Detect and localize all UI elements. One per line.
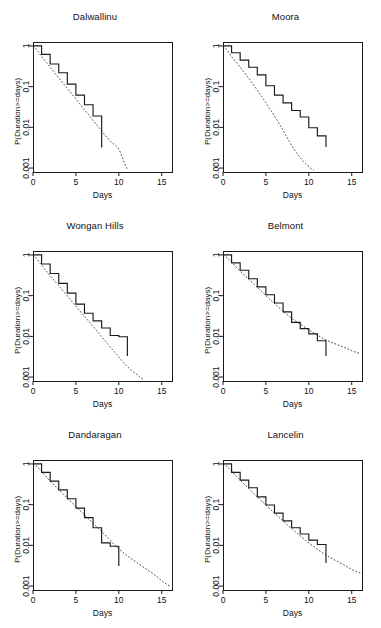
y-tick-label: 0.01 [21, 537, 31, 554]
x-axis-label: Days [33, 399, 172, 409]
y-tick-label: 0.01 [21, 119, 31, 136]
x-axis-label: Days [223, 190, 362, 200]
empirical-step-curve [33, 255, 127, 356]
x-tick-label: 15 [157, 595, 167, 605]
y-tick-label: 0.01 [211, 328, 221, 345]
y-tick-label: 0.1 [21, 498, 31, 510]
plot-area: 05101510.10.010.001 [190, 418, 380, 627]
chart-panel: Moora05101510.10.010.001P(Duration>=days… [190, 0, 381, 209]
x-tick-label: 0 [221, 595, 226, 605]
x-tick-label: 10 [114, 177, 124, 187]
x-tick-label: 5 [74, 177, 79, 187]
y-tick-label: 1 [21, 252, 31, 257]
x-axis-label: Days [223, 399, 362, 409]
x-tick-label: 10 [114, 595, 124, 605]
plot-area: 05101510.10.010.001 [0, 418, 190, 627]
y-tick-label: 1 [211, 252, 221, 257]
y-tick-label: 0.1 [211, 498, 221, 510]
chart-panel: Dalwallinu05101510.10.010.001P(Duration>… [0, 0, 190, 209]
figure-panel-grid: Dalwallinu05101510.10.010.001P(Duration>… [0, 0, 381, 628]
y-tick-label: 1 [21, 43, 31, 48]
x-axis-label: Days [33, 190, 172, 200]
x-tick-label: 0 [221, 177, 226, 187]
x-tick-label: 0 [31, 595, 36, 605]
x-tick-label: 5 [74, 595, 79, 605]
y-tick-label: 0.1 [21, 289, 31, 301]
y-tick-label: 0.01 [211, 119, 221, 136]
chart-panel: Belmont05101510.10.010.001P(Duration>=da… [190, 209, 381, 418]
y-tick-label: 0.001 [211, 366, 221, 388]
plot-area: 05101510.10.010.001 [0, 0, 190, 209]
x-tick-label: 15 [157, 386, 167, 396]
plot-frame [34, 461, 173, 591]
y-tick-label: 1 [21, 461, 31, 466]
y-tick-label: 0.001 [21, 366, 31, 388]
y-tick-label: 1 [211, 461, 221, 466]
empirical-step-curve [223, 46, 326, 147]
fitted-curve [223, 46, 314, 170]
chart-panel: Lancelin05101510.10.010.001P(Duration>=d… [190, 418, 381, 628]
x-tick-label: 15 [347, 386, 357, 396]
y-tick-label: 0.01 [211, 537, 221, 554]
y-tick-label: 0.001 [211, 575, 221, 597]
x-tick-label: 5 [74, 386, 79, 396]
y-axis-label: P(Duration>=days) [13, 78, 22, 145]
fitted-curve [33, 464, 170, 586]
chart-panel: Dandaragan05101510.10.010.001P(Duration>… [0, 418, 190, 628]
y-tick-label: 0.1 [211, 80, 221, 92]
y-tick-label: 1 [211, 43, 221, 48]
empirical-step-curve [33, 464, 119, 566]
y-tick-label: 0.01 [21, 328, 31, 345]
fitted-curve [33, 46, 127, 169]
x-tick-label: 15 [347, 595, 357, 605]
plot-frame [224, 252, 363, 382]
x-tick-label: 0 [31, 177, 36, 187]
x-tick-label: 5 [264, 595, 269, 605]
x-tick-label: 10 [304, 595, 314, 605]
y-axis-label: P(Duration>=days) [13, 496, 22, 563]
x-axis-label: Days [223, 608, 362, 618]
plot-frame [224, 43, 363, 173]
y-tick-label: 0.1 [211, 289, 221, 301]
x-tick-label: 5 [264, 386, 269, 396]
x-axis-label: Days [33, 608, 172, 618]
x-tick-label: 15 [157, 177, 167, 187]
x-tick-label: 10 [304, 177, 314, 187]
y-axis-label: P(Duration>=days) [203, 496, 212, 563]
y-tick-label: 0.001 [21, 157, 31, 179]
x-tick-label: 10 [304, 386, 314, 396]
x-tick-label: 0 [221, 386, 226, 396]
y-tick-label: 0.001 [211, 157, 221, 179]
empirical-step-curve [33, 46, 102, 148]
plot-frame [34, 43, 173, 173]
y-axis-label: P(Duration>=days) [203, 287, 212, 354]
x-tick-label: 10 [114, 386, 124, 396]
y-tick-label: 0.1 [21, 80, 31, 92]
y-axis-label: P(Duration>=days) [13, 287, 22, 354]
plot-area: 05101510.10.010.001 [0, 209, 190, 418]
plot-area: 05101510.10.010.001 [190, 209, 380, 418]
y-axis-label: P(Duration>=days) [203, 78, 212, 145]
x-tick-label: 15 [347, 177, 357, 187]
plot-area: 05101510.10.010.001 [190, 0, 380, 209]
x-tick-label: 0 [31, 386, 36, 396]
chart-panel: Wongan Hills05101510.10.010.001P(Duratio… [0, 209, 190, 418]
plot-frame [34, 252, 173, 382]
y-tick-label: 0.001 [21, 575, 31, 597]
x-tick-label: 5 [264, 177, 269, 187]
